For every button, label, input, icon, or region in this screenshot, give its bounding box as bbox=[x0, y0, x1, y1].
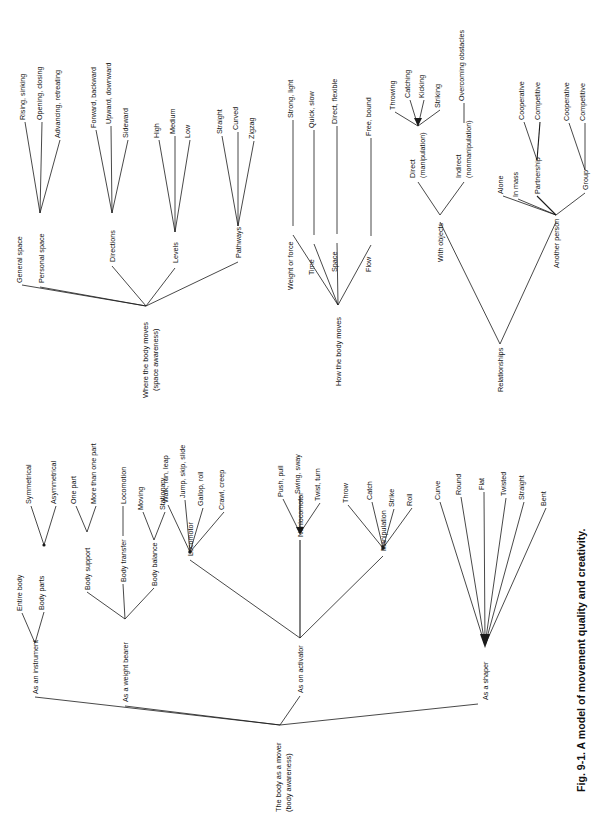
label-twist-turn: Twist, turn bbox=[313, 468, 322, 501]
label-walk-run-leap: Walk, run, leap bbox=[161, 455, 170, 503]
figure-caption: Fig. 9-1. A model of movement quality an… bbox=[575, 529, 587, 792]
edge-root-as-a-weight-bearer bbox=[125, 706, 280, 725]
edge-root-as-a-shaper bbox=[280, 704, 478, 725]
label-locomotor: Locomotor bbox=[186, 521, 195, 556]
body-as-mover-subtree bbox=[22, 492, 546, 725]
label-straight-pathway: Straight bbox=[215, 109, 224, 134]
label-upward-downward: Upward, downward bbox=[104, 62, 113, 124]
label-how-body-moves: How the body moves bbox=[334, 317, 343, 386]
edge-shaper-curve bbox=[440, 502, 485, 645]
label-moving: Moving bbox=[136, 487, 145, 510]
label-sideward: Sideward bbox=[121, 108, 130, 138]
label-competitive-partnership: Competitive bbox=[533, 82, 542, 120]
where-the-body-moves-subtree bbox=[22, 122, 254, 306]
edge-wbm-levels bbox=[146, 268, 175, 306]
label-as-a-shaper: As a shaper bbox=[481, 661, 490, 700]
edge-dir-upward-downward bbox=[111, 126, 112, 213]
label-locomotion: Locomotion bbox=[119, 467, 128, 504]
label-one-part: One part bbox=[69, 476, 78, 504]
label-the-body-as-a-mover-line2: (body awareness) bbox=[284, 753, 293, 812]
label-low: Low bbox=[183, 124, 192, 138]
label-strike: Strike bbox=[387, 489, 396, 507]
label-relationships: Relationships bbox=[496, 347, 505, 392]
edge-root-as-on-activator bbox=[280, 696, 300, 725]
edge-partner-cooperative bbox=[524, 122, 537, 160]
label-throw: Throw bbox=[341, 482, 350, 503]
edge-wbm-directions bbox=[112, 266, 146, 306]
label-another-person: Another person bbox=[552, 219, 561, 268]
edge-ap-alone bbox=[503, 196, 556, 215]
label-with-objects: With objects bbox=[436, 222, 445, 262]
edge-activator-manipulation bbox=[300, 556, 383, 638]
edge-bs-one-part bbox=[76, 506, 87, 532]
label-direct-line2: (manipulation) bbox=[418, 132, 427, 178]
edge-hbm-flow bbox=[338, 245, 371, 305]
label-opening-closing: Opening, closing bbox=[35, 66, 44, 120]
label-entire-body: Entire body bbox=[15, 574, 24, 611]
edge-wbm-pathways bbox=[146, 262, 238, 306]
label-cooperative-partnership: Cooperative bbox=[517, 81, 526, 120]
label-nonlocomotor: Nonlocomotor bbox=[296, 492, 305, 537]
edge-shaper-straight bbox=[485, 502, 524, 645]
label-gallop-roll: Gallop, roll bbox=[196, 471, 205, 506]
edge-activator-locomotor bbox=[190, 560, 300, 638]
edge-wbm-personal-space bbox=[40, 287, 146, 306]
node-dot-body-parts bbox=[42, 543, 45, 546]
edge-wo-direct bbox=[418, 182, 440, 215]
label-indirect-line1: Indirect bbox=[454, 154, 463, 178]
label-catch: Catch bbox=[365, 481, 374, 500]
label-competitive-group: Competitive bbox=[578, 83, 587, 121]
label-high: High bbox=[152, 123, 161, 138]
label-crawl-creep: Crawl, creep bbox=[217, 470, 226, 510]
edge-lev-high bbox=[159, 140, 175, 232]
edge-shaper-round bbox=[461, 497, 485, 645]
label-direct-line1: Direct bbox=[408, 159, 417, 178]
label-direct-flexible: Direct, flexible bbox=[330, 79, 339, 124]
edge-ap-partnership bbox=[537, 196, 556, 215]
label-straight-shape: Straight bbox=[517, 475, 526, 500]
label-manipulation: Manipulation bbox=[379, 510, 388, 551]
edge-ps-rising-sinking bbox=[25, 122, 40, 213]
label-the-body-as-a-mover-line1: The body as a mover bbox=[274, 742, 283, 812]
label-in-mass: In mass bbox=[511, 171, 520, 197]
label-pathways: Pathways bbox=[234, 226, 243, 258]
label-group: Group bbox=[581, 170, 590, 190]
label-push-pull: Push, pull bbox=[276, 465, 285, 497]
label-levels: Levels bbox=[171, 242, 180, 263]
label-swing-sway: Swing, sway bbox=[293, 454, 302, 494]
how-the-body-moves-subtree bbox=[293, 120, 371, 305]
label-roll: Roll bbox=[405, 493, 414, 506]
label-advancing-retreating: Advancing, retreating bbox=[53, 70, 62, 138]
label-body-parts: Body parts bbox=[37, 575, 46, 610]
edge-wo-indirect bbox=[440, 182, 464, 215]
edge-wb-body-balance bbox=[125, 588, 154, 619]
label-strong-light: Strong, light bbox=[286, 80, 295, 118]
movement-model-diagram: General space Personal space Rising, sin… bbox=[0, 0, 602, 816]
label-general-space: General space bbox=[15, 236, 24, 283]
label-rising-sinking: Rising, sinking bbox=[18, 74, 27, 120]
label-personal-space: Personal space bbox=[37, 233, 46, 283]
label-jump-skip-slide: Jump, skip, slide bbox=[178, 445, 187, 498]
edge-partner-competitive bbox=[537, 122, 540, 160]
label-throwing: Throwing bbox=[388, 80, 397, 110]
label-bent: Bent bbox=[539, 491, 548, 506]
edge-rel-with-objects bbox=[440, 222, 500, 344]
edge-wb-body-support bbox=[87, 592, 125, 619]
edge-loco-crawl-creep bbox=[190, 512, 224, 552]
edge-instrument-body-parts bbox=[35, 612, 44, 643]
edge-bb-stationary bbox=[154, 512, 165, 540]
edge-ap-in-mass bbox=[518, 199, 556, 215]
label-partnership: Partnership bbox=[533, 157, 542, 194]
edge-bb-moving bbox=[143, 512, 154, 540]
label-as-an-instrument: As an instrument bbox=[31, 640, 40, 694]
label-alone: Alone bbox=[496, 176, 505, 194]
edge-bodyparts-asymmetrical bbox=[44, 506, 56, 545]
label-space: Space bbox=[330, 252, 339, 272]
label-striking: Striking bbox=[433, 84, 442, 108]
edge-path-straight bbox=[222, 136, 238, 226]
label-catching: Catching bbox=[403, 70, 412, 98]
label-where-body-moves-line2: (space awareness) bbox=[151, 329, 160, 391]
arrowhead-direct bbox=[414, 118, 422, 126]
label-body-support: Body support bbox=[83, 548, 92, 590]
label-flat: Flat bbox=[477, 478, 486, 490]
